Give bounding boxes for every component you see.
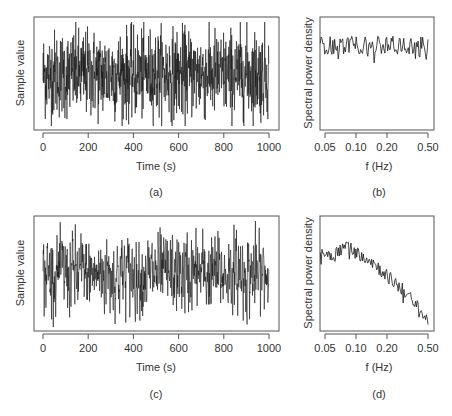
x-tick-label: 0.20 xyxy=(376,141,397,153)
x-tick-label: 0.20 xyxy=(376,342,397,354)
panel-c: 02004006008001000 Time (s) Sample value … xyxy=(14,216,281,400)
x-axis-b: 0.050.100.200.50 xyxy=(314,133,438,153)
x-tick-label: 800 xyxy=(215,141,233,153)
x-axis-c: 02004006008001000 xyxy=(40,334,281,354)
x-tick-label: 0.10 xyxy=(345,141,366,153)
time-series-c xyxy=(43,221,269,327)
x-tick-label: 1000 xyxy=(257,141,281,153)
x-tick-label: 0.05 xyxy=(314,342,335,354)
x-tick-label: 0 xyxy=(40,342,46,354)
x-tick-label: 0.05 xyxy=(314,141,335,153)
caption-b: (b) xyxy=(372,186,385,198)
x-tick-label: 400 xyxy=(124,342,142,354)
x-tick-label: 0.10 xyxy=(345,342,366,354)
caption-a: (a) xyxy=(149,186,162,198)
figure: 02004006008001000 Time (s) Sample value … xyxy=(0,0,452,416)
x-tick-label: 0.50 xyxy=(417,141,438,153)
panel-b: 0.050.100.200.50 f (Hz) Spectral power d… xyxy=(302,17,439,198)
time-series-a xyxy=(43,22,269,126)
y-axis-label-a: Sample value xyxy=(14,40,26,107)
x-tick-label: 600 xyxy=(169,342,187,354)
x-axis-a: 02004006008001000 xyxy=(40,133,281,153)
y-axis-label-b: Spectral power density xyxy=(302,17,314,129)
x-axis-label-a: Time (s) xyxy=(136,160,176,172)
x-axis-label-d: f (Hz) xyxy=(366,361,393,373)
x-axis-d: 0.050.100.200.50 xyxy=(314,334,438,354)
x-tick-label: 800 xyxy=(215,342,233,354)
x-tick-label: 1000 xyxy=(257,342,281,354)
caption-c: (c) xyxy=(150,388,163,400)
x-tick-label: 600 xyxy=(169,141,187,153)
x-tick-label: 0 xyxy=(40,141,46,153)
x-axis-label-b: f (Hz) xyxy=(366,160,393,172)
x-tick-label: 0.50 xyxy=(417,342,438,354)
panel-a: 02004006008001000 Time (s) Sample value … xyxy=(14,17,281,198)
plot-frame-d xyxy=(320,216,434,331)
caption-d: (d) xyxy=(372,388,385,400)
y-axis-label-c: Sample value xyxy=(14,240,26,307)
y-axis-label-d: Spectral power density xyxy=(302,217,314,329)
x-axis-label-c: Time (s) xyxy=(136,361,176,373)
panel-d: 0.050.100.200.50 f (Hz) Spectral power d… xyxy=(302,216,439,400)
plot-frame-b xyxy=(320,17,434,130)
spectrum-b xyxy=(320,36,428,63)
spectrum-d xyxy=(320,242,428,325)
x-tick-label: 400 xyxy=(124,141,142,153)
x-tick-label: 200 xyxy=(79,141,97,153)
x-tick-label: 200 xyxy=(79,342,97,354)
